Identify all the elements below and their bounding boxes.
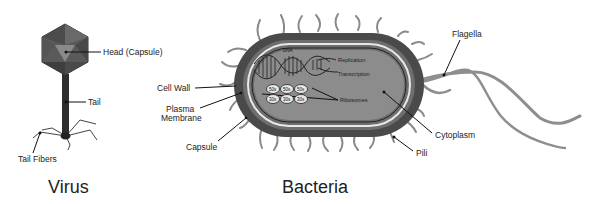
ribosome-30s-1: 30s <box>269 97 277 102</box>
virus-tail <box>62 74 69 136</box>
virus-illustration: Head (Capsule) Tail Tail Fibers Virus <box>18 24 163 197</box>
diagram-canvas: Head (Capsule) Tail Tail Fibers Virus <box>0 0 594 204</box>
label-head-capsule: Head (Capsule) <box>103 47 163 57</box>
label-pili: Pili <box>416 148 427 158</box>
label-flagella: Flagella <box>452 29 482 39</box>
label-transcription: Transcription <box>338 71 370 77</box>
ribosome-50s-3: 50s <box>297 87 305 92</box>
bacteria-title: Bacteria <box>282 177 349 197</box>
label-membrane: Membrane <box>161 113 202 123</box>
label-cell-wall: Cell Wall <box>157 83 190 93</box>
ribosome-50s-1: 50s <box>269 87 277 92</box>
label-cytoplasm: Cytoplasm <box>435 130 475 140</box>
label-replication: Replication <box>338 57 365 63</box>
ribosome-row-top: 50s 50s 50s <box>267 85 308 94</box>
label-tail: Tail <box>88 97 101 107</box>
virus-base-plate <box>61 133 71 140</box>
label-tail-fibers: Tail Fibers <box>18 154 57 164</box>
label-ribosomes: Ribosomes <box>340 97 368 103</box>
ribosome-50s-2: 50s <box>283 87 291 92</box>
virus-head <box>42 24 88 75</box>
ribosome-30s-2: 30s <box>283 97 291 102</box>
virus-title: Virus <box>48 177 89 197</box>
label-capsule: Capsule <box>186 142 217 152</box>
bacteria-illustration: DNA Replication Transcription 50s 50s 50… <box>157 14 580 197</box>
label-dna: DNA <box>283 48 293 53</box>
ribosome-row-bottom: 30s 30s 30s <box>267 95 308 104</box>
ribosome-30s-3: 30s <box>297 97 305 102</box>
